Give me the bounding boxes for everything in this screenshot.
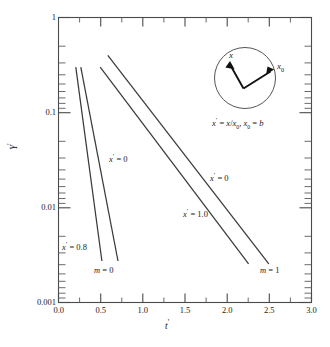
curve-label-m1-xp10: x′ = 1.0 — [183, 207, 208, 219]
x-axis-major-ticks — [59, 294, 312, 303]
curve-label-m0-group: m = 0 — [94, 265, 113, 275]
inset-diagram — [215, 48, 276, 109]
curve-label-m1-group: m = 1 — [260, 265, 279, 275]
x-tick-label-0p5: 0.5 — [91, 305, 111, 315]
x-axis-title: t' — [165, 318, 169, 331]
x-tick-label-3p0: 3.0 — [302, 305, 322, 315]
y-axis-title: Y' — [6, 143, 19, 150]
data-line-m0-xp0 — [81, 67, 118, 261]
inset-arrow-label-x: x — [229, 50, 233, 60]
data-line-m0-xp08 — [76, 67, 102, 261]
inset-arrow-x-head — [225, 61, 234, 69]
inset-caption: x′ = x/x0, x0 = b — [212, 116, 263, 130]
data-line-m1-xp10 — [100, 67, 248, 264]
x-tick-label-2p0: 2.0 — [217, 305, 237, 315]
y-tick-label-0p01: 0.01 — [28, 202, 56, 212]
y-tick-label-0p1: 0.1 — [33, 107, 56, 117]
inset-label-x-text: x — [229, 50, 233, 60]
y-axis-title-symbol: Y — [9, 145, 19, 150]
semilog-plot-figure — [0, 0, 330, 347]
y-tick-label-1: 1 — [46, 12, 56, 22]
y-axis-title-prime: ' — [6, 143, 15, 144]
y-axis-minor-ticks — [59, 46, 66, 298]
x-tick-label-1p0: 1.0 — [133, 305, 153, 315]
inset-label-x0-sub: 0 — [281, 67, 284, 73]
x-tick-label-1p5: 1.5 — [175, 305, 195, 315]
inset-arrow-label-x0: x0 — [277, 61, 284, 73]
x-axis-title-prime: ' — [168, 318, 169, 327]
y-axis-major-ticks — [59, 18, 71, 303]
y-axis-right-minor-ticks — [305, 46, 312, 298]
plot-frame — [59, 18, 312, 303]
curve-label-m0-xp0: x′ = 0 — [109, 152, 128, 164]
x-tick-label-0p0: 0.0 — [49, 305, 69, 315]
data-line-m1-xp0 — [108, 55, 269, 263]
x-axis-top-major-ticks — [101, 18, 270, 27]
inset-arrow-x0-head — [266, 67, 274, 75]
y-axis-right-ticks — [300, 18, 312, 303]
curve-label-m1-xp0: x′ = 0 — [210, 171, 229, 183]
curve-label-m0-xp08: x′ = 0.8 — [62, 240, 87, 252]
x-tick-label-2p5: 2.5 — [259, 305, 279, 315]
inset-circle — [215, 48, 276, 109]
